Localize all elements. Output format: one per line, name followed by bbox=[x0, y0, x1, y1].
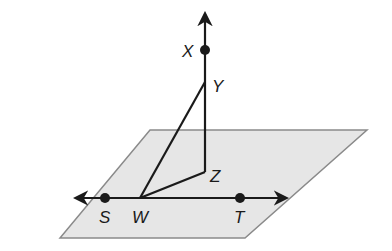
point-s bbox=[100, 193, 110, 203]
label-t: T bbox=[234, 208, 246, 227]
geometry-diagram: X Y Z S W T bbox=[0, 0, 392, 251]
point-t bbox=[235, 193, 245, 203]
label-y: Y bbox=[212, 77, 225, 96]
label-w: W bbox=[132, 208, 150, 227]
point-x bbox=[200, 45, 210, 55]
label-z: Z bbox=[209, 167, 221, 186]
label-s: S bbox=[99, 208, 111, 227]
label-x: X bbox=[181, 42, 194, 61]
